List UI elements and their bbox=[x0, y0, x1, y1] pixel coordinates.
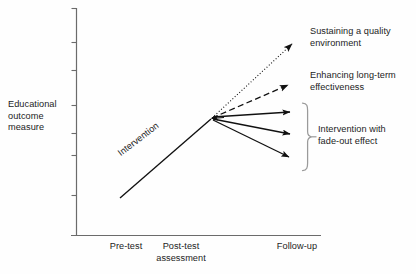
sustaining-trajectory-line bbox=[212, 44, 292, 118]
annotation-sustaining-quality-environment: Sustaining a quality environment bbox=[310, 26, 415, 49]
fadeout-arrow-bottom bbox=[213, 120, 289, 157]
y-axis-label: Educational outcome measure bbox=[8, 99, 74, 134]
fadeout-brace bbox=[303, 103, 317, 171]
x-axis-tick-label-post-test: Post-test assessment bbox=[148, 241, 214, 264]
annotation-intervention-fade-out-effect: Intervention with fade-out effect bbox=[318, 124, 416, 147]
fadeout-arrow-middle bbox=[213, 119, 290, 134]
x-axis-tick-label-follow-up: Follow-up bbox=[266, 241, 328, 253]
figure-canvas: Educational outcome measure Pre-test Pos… bbox=[0, 0, 416, 274]
fadeout-trajectory-lines bbox=[212, 112, 291, 157]
intervention-line bbox=[120, 119, 211, 198]
annotation-enhancing-long-term-effectiveness: Enhancing long-term effectiveness bbox=[310, 70, 415, 93]
